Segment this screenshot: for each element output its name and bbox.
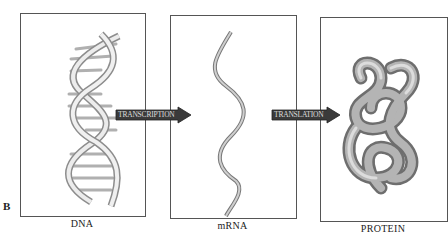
dna-caption: DNA: [20, 218, 144, 229]
transcription-label: TRANSCRIPTION: [118, 109, 175, 121]
panel-letter: B: [3, 200, 10, 212]
translation-label: TRANSLATION: [274, 109, 323, 121]
translation-arrow: TRANSLATION: [272, 108, 340, 122]
mrna-caption: mRNA: [170, 220, 295, 231]
protein-caption: PROTEIN: [320, 223, 446, 234]
transcription-arrow: TRANSCRIPTION: [116, 108, 192, 122]
